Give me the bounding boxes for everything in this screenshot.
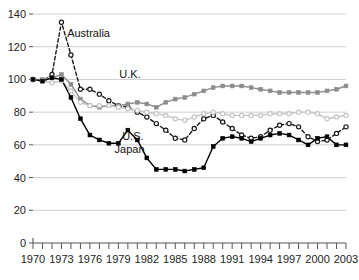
- data-point: [296, 125, 300, 129]
- data-point: [230, 135, 234, 139]
- y-tick-label: 80: [14, 106, 26, 118]
- x-tick-label: 2000: [305, 253, 329, 265]
- data-point: [202, 117, 206, 121]
- data-point: [192, 115, 196, 119]
- data-point: [164, 167, 168, 171]
- data-point: [344, 143, 348, 147]
- data-point: [221, 112, 225, 116]
- data-point: [334, 131, 338, 135]
- x-tick-label: 2003: [334, 253, 358, 265]
- data-point: [192, 167, 196, 171]
- data-point: [344, 113, 348, 117]
- data-point: [278, 123, 282, 127]
- data-point: [50, 81, 54, 85]
- y-tick-label: 40: [14, 172, 26, 184]
- y-tick-label: 100: [8, 73, 26, 85]
- data-point: [211, 86, 215, 90]
- data-point: [249, 86, 253, 90]
- series-label-us: U.S.: [122, 130, 143, 142]
- series-label-uk: U.K.: [119, 68, 140, 80]
- data-point: [344, 84, 348, 88]
- data-point: [221, 120, 225, 124]
- data-point: [287, 91, 291, 95]
- data-point: [135, 100, 139, 104]
- data-point: [297, 91, 301, 95]
- x-tick-label: 1997: [277, 253, 301, 265]
- data-point: [135, 108, 139, 112]
- data-point: [164, 113, 168, 117]
- data-point: [173, 167, 177, 171]
- data-point: [306, 91, 310, 95]
- data-point: [230, 113, 234, 117]
- x-tick-label: 1979: [106, 253, 130, 265]
- data-point: [306, 143, 310, 147]
- data-point: [240, 84, 244, 88]
- data-point: [325, 89, 329, 93]
- data-point: [164, 128, 168, 132]
- x-tick-label: 1994: [248, 253, 272, 265]
- y-tick-label: 60: [14, 139, 26, 151]
- data-point: [334, 115, 338, 119]
- data-point: [154, 167, 158, 171]
- x-tick-label: 1970: [21, 253, 45, 265]
- data-point: [145, 110, 149, 114]
- data-point: [69, 96, 73, 100]
- data-point: [325, 135, 329, 139]
- data-point: [230, 84, 234, 88]
- data-point: [249, 113, 253, 117]
- data-point: [183, 118, 187, 122]
- data-point: [230, 126, 234, 130]
- data-point: [78, 100, 82, 104]
- data-point: [240, 113, 244, 117]
- data-point: [145, 115, 149, 119]
- data-point: [259, 136, 263, 140]
- data-point: [116, 105, 120, 109]
- data-point: [60, 78, 64, 82]
- data-point: [107, 104, 111, 108]
- series-label-australia: Australia: [67, 27, 111, 39]
- y-tick-label: 0: [20, 237, 26, 249]
- data-point: [202, 112, 206, 116]
- series-label-japan: Japan: [115, 143, 145, 155]
- y-tick-label: 140: [8, 8, 26, 20]
- data-point: [278, 132, 282, 136]
- chart-background: [0, 0, 359, 280]
- data-point: [278, 112, 282, 116]
- data-point: [145, 102, 149, 106]
- data-point: [41, 79, 45, 83]
- data-point: [335, 143, 339, 147]
- data-point: [202, 166, 206, 170]
- data-point: [287, 112, 291, 116]
- data-point: [88, 133, 92, 137]
- data-point: [69, 53, 73, 57]
- data-point: [192, 92, 196, 96]
- data-point: [183, 169, 187, 173]
- data-point: [183, 138, 187, 142]
- data-point: [154, 121, 158, 125]
- data-point: [278, 91, 282, 95]
- data-point: [107, 99, 111, 103]
- data-point: [60, 73, 64, 77]
- data-point: [221, 136, 225, 140]
- data-point: [259, 87, 263, 91]
- data-point: [78, 87, 82, 91]
- data-point: [97, 138, 101, 142]
- data-point: [240, 136, 244, 140]
- data-point: [50, 76, 54, 80]
- data-point: [316, 136, 320, 140]
- data-point: [88, 87, 92, 91]
- data-point: [268, 128, 272, 132]
- y-tick-label: 20: [14, 204, 26, 216]
- data-point: [97, 104, 101, 108]
- data-point: [88, 104, 92, 108]
- data-point: [97, 92, 101, 96]
- data-point: [126, 107, 130, 111]
- data-point: [325, 117, 329, 121]
- x-tick-label: 1988: [191, 253, 215, 265]
- data-point: [268, 133, 272, 137]
- data-point: [79, 117, 83, 121]
- x-tick-label: 1973: [49, 253, 73, 265]
- data-point: [192, 126, 196, 130]
- data-point: [211, 145, 215, 149]
- x-tick-label: 1985: [163, 253, 187, 265]
